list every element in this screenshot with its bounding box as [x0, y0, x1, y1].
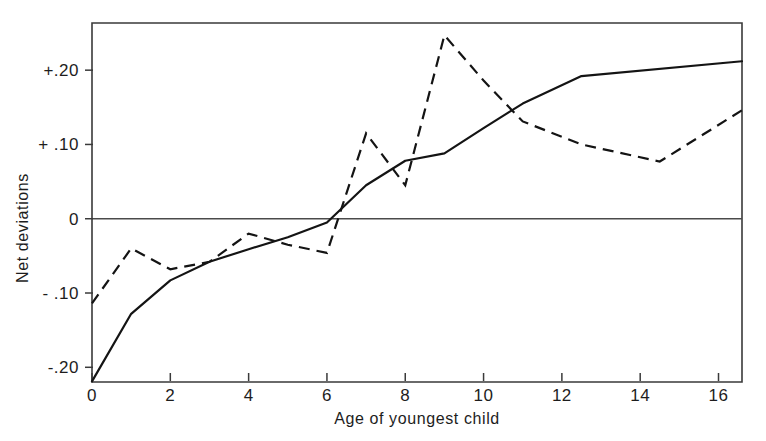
- y-axis-tick-label: +.20: [43, 61, 79, 80]
- plot-frame: [92, 23, 742, 382]
- x-axis-tick-label: 4: [244, 386, 254, 405]
- chart-figure: +.20+ .100- .10-.20 0246810121416 Age of…: [0, 0, 766, 441]
- x-axis-tick-label-group: 0246810121416: [87, 386, 728, 405]
- x-axis-title: Age of youngest child: [334, 410, 500, 427]
- x-axis-tick-label: 6: [322, 386, 332, 405]
- x-axis-tick-label: 12: [552, 386, 572, 405]
- x-axis-tick-label: 14: [630, 386, 650, 405]
- y-axis-title: Net deviations: [14, 173, 31, 283]
- y-axis-tick-label-group: +.20+ .100- .10-.20: [38, 61, 79, 377]
- x-axis-tick-label: 0: [87, 386, 97, 405]
- series-dashed-curve: [92, 35, 742, 303]
- x-axis-tick-label: 2: [165, 386, 175, 405]
- y-axis-tick-label: -.20: [48, 358, 79, 377]
- x-axis-tick-group: [92, 373, 719, 381]
- y-axis-tick-label: + .10: [38, 135, 79, 154]
- plot-frame-border: [92, 23, 742, 382]
- x-axis-tick-label: 10: [474, 386, 494, 405]
- y-axis-tick-label: - .10: [42, 284, 79, 303]
- series-solid-curve: [92, 61, 742, 381]
- y-axis-tick-label: 0: [69, 210, 79, 229]
- x-axis-tick-label: 8: [400, 386, 410, 405]
- x-axis-tick-label: 16: [709, 386, 729, 405]
- net-deviations-line-chart: +.20+ .100- .10-.20 0246810121416 Age of…: [0, 0, 766, 441]
- series-group: [92, 35, 742, 381]
